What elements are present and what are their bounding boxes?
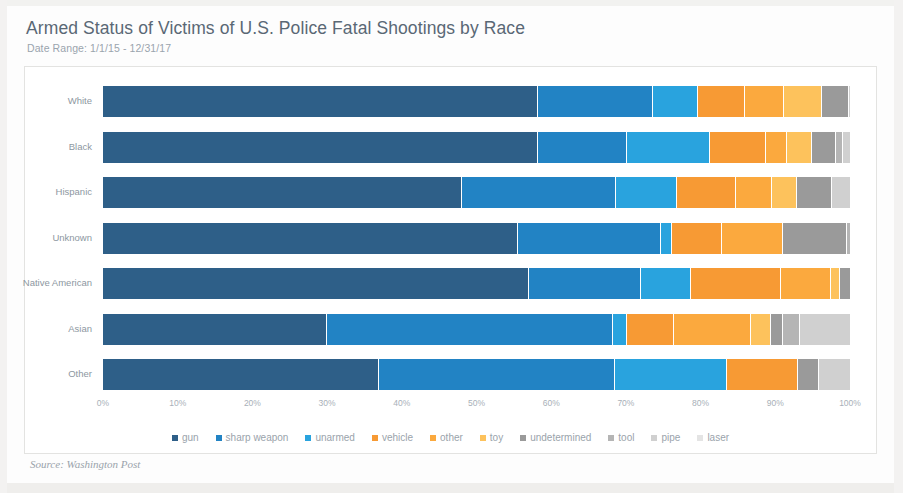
legend-swatch-icon (697, 435, 703, 441)
bar-segment[interactable] (653, 86, 699, 117)
legend-label: pipe (661, 432, 680, 443)
bar-segment[interactable] (103, 268, 529, 299)
bar-segment[interactable] (822, 86, 849, 117)
bar-segment[interactable] (832, 177, 850, 208)
bar-segment[interactable] (672, 223, 721, 254)
bar-segment[interactable] (710, 132, 767, 163)
bar-segment[interactable] (727, 359, 797, 390)
stacked-bar[interactable] (103, 223, 850, 254)
bar-segment[interactable] (103, 223, 518, 254)
x-tick-label: 80% (692, 398, 709, 408)
legend-label: undetermined (530, 432, 591, 443)
legend-item[interactable]: unarmed (305, 432, 354, 443)
legend-item[interactable]: sharp weapon (216, 432, 289, 443)
bar-segment[interactable] (797, 177, 832, 208)
bar-segment[interactable] (722, 223, 783, 254)
bar-segment[interactable] (627, 314, 673, 345)
bar-segment[interactable] (840, 268, 850, 299)
bar-segment[interactable] (831, 268, 840, 299)
page-edge-left (0, 0, 7, 493)
bar-segment[interactable] (538, 86, 653, 117)
bar-segment[interactable] (772, 177, 797, 208)
bar-segment[interactable] (736, 177, 772, 208)
x-tick-label: 40% (393, 398, 410, 408)
legend-label: tool (618, 432, 634, 443)
legend-swatch-icon (480, 435, 486, 441)
bar-segment[interactable] (819, 359, 850, 390)
bar-segment[interactable] (627, 132, 709, 163)
bar-segment[interactable] (766, 132, 787, 163)
bar-segment[interactable] (783, 314, 800, 345)
bar-row: Other (103, 359, 850, 390)
bar-segment[interactable] (783, 223, 847, 254)
bar-row: Black (103, 132, 850, 163)
bar-segment[interactable] (103, 177, 462, 208)
x-tick-label: 70% (617, 398, 634, 408)
legend-item[interactable]: toy (480, 432, 503, 443)
bar-segment[interactable] (379, 359, 614, 390)
stacked-bar[interactable] (103, 132, 850, 163)
legend-swatch-icon (608, 435, 614, 441)
chart-subtitle: Date Range: 1/1/15 - 12/31/17 (27, 42, 171, 54)
bar-segment[interactable] (518, 223, 661, 254)
bar-segment[interactable] (616, 177, 677, 208)
stacked-bar[interactable] (103, 268, 850, 299)
x-tick-label: 0% (97, 398, 109, 408)
bar-segment[interactable] (103, 314, 327, 345)
x-tick-label: 90% (767, 398, 784, 408)
legend-item[interactable]: other (430, 432, 463, 443)
source-note: Source: Washington Post (30, 458, 140, 470)
bar-segment[interactable] (103, 86, 538, 117)
bar-segment[interactable] (798, 359, 820, 390)
bar-row: Hispanic (103, 177, 850, 208)
bar-segment[interactable] (784, 86, 823, 117)
bar-row: Unknown (103, 223, 850, 254)
stacked-bar[interactable] (103, 359, 850, 390)
legend-item[interactable]: pipe (651, 432, 680, 443)
bar-segment[interactable] (698, 86, 744, 117)
bar-segment[interactable] (103, 359, 379, 390)
chart-page: Armed Status of Victims of U.S. Police F… (0, 0, 903, 493)
bar-segment[interactable] (615, 359, 728, 390)
bars-container: WhiteBlackHispanicUnknownNative American… (103, 86, 850, 389)
bar-segment[interactable] (103, 132, 538, 163)
bar-segment[interactable] (847, 223, 850, 254)
bar-segment[interactable] (641, 268, 691, 299)
bar-segment[interactable] (787, 132, 812, 163)
bar-segment[interactable] (751, 314, 771, 345)
bar-segment[interactable] (327, 314, 613, 345)
category-label: Unknown (52, 232, 92, 243)
legend-item[interactable]: laser (697, 432, 729, 443)
bar-segment[interactable] (691, 268, 781, 299)
bar-row: White (103, 86, 850, 117)
bar-segment[interactable] (661, 223, 672, 254)
bar-segment[interactable] (529, 268, 641, 299)
bar-segment[interactable] (843, 132, 850, 163)
bar-segment[interactable] (613, 314, 627, 345)
bar-segment[interactable] (849, 86, 850, 117)
chart-title: Armed Status of Victims of U.S. Police F… (26, 18, 525, 39)
legend-item[interactable]: tool (608, 432, 634, 443)
bar-segment[interactable] (462, 177, 617, 208)
stacked-bar[interactable] (103, 177, 850, 208)
category-label: Other (68, 368, 92, 379)
bar-segment[interactable] (677, 177, 736, 208)
legend-item[interactable]: vehicle (372, 432, 413, 443)
legend-item[interactable]: gun (172, 432, 199, 443)
legend-swatch-icon (216, 435, 222, 441)
bar-segment[interactable] (812, 132, 837, 163)
legend-item[interactable]: undetermined (520, 432, 591, 443)
page-edge-top (0, 0, 903, 6)
bar-segment[interactable] (674, 314, 751, 345)
bar-segment[interactable] (781, 268, 832, 299)
legend-label: other (440, 432, 463, 443)
category-label: White (68, 95, 92, 106)
legend-swatch-icon (172, 435, 178, 441)
stacked-bar[interactable] (103, 314, 850, 345)
bar-segment[interactable] (771, 314, 783, 345)
bar-segment[interactable] (800, 314, 850, 345)
stacked-bar[interactable] (103, 86, 850, 117)
bar-segment[interactable] (538, 132, 628, 163)
bar-segment[interactable] (836, 132, 843, 163)
bar-segment[interactable] (745, 86, 784, 117)
